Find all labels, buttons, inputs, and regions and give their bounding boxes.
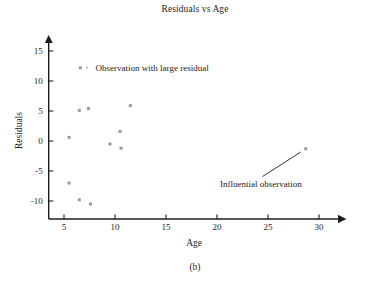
tick-layer — [49, 51, 319, 219]
y-tick-label: 5 — [38, 106, 43, 116]
x-tick-label: 30 — [315, 222, 325, 232]
x-tick-label: 15 — [162, 222, 172, 232]
data-point — [79, 66, 82, 69]
data-point — [68, 136, 71, 139]
data-point — [129, 104, 132, 107]
x-tick-label: 20 — [213, 222, 223, 232]
annotation-leader-line — [263, 152, 301, 176]
scatter-plot: 51015202530-10-5051015 Observation with … — [0, 0, 390, 288]
annotation-layer: Observation with large residualInfluenti… — [86, 63, 302, 189]
y-tick-label: 15 — [34, 46, 44, 56]
y-tick-label: -5 — [35, 166, 43, 176]
data-point — [304, 147, 307, 150]
y-tick-label: -10 — [31, 196, 43, 206]
data-point — [119, 130, 122, 133]
annotation-label: Observation with large residual — [96, 63, 210, 73]
x-tick-label: 10 — [111, 222, 121, 232]
figure-panel: Residuals vs Age 51015202530-10-5051015 … — [0, 0, 390, 288]
x-tick-label: 5 — [62, 222, 67, 232]
data-point — [120, 147, 123, 150]
data-point — [87, 107, 90, 110]
y-tick-label: 10 — [34, 76, 44, 86]
annotation-label: Influential observation — [220, 179, 302, 189]
data-point — [108, 143, 111, 146]
y-tick-label: 0 — [38, 136, 43, 146]
axis-title-layer: AgeResiduals — [14, 112, 202, 248]
x-tick-label: 25 — [264, 222, 274, 232]
data-point — [68, 182, 71, 185]
tick-label-layer: 51015202530-10-5051015 — [31, 46, 324, 232]
data-point — [78, 198, 81, 201]
x-axis-title: Age — [186, 238, 202, 248]
y-axis-title: Residuals — [14, 112, 24, 149]
figure-caption: (b) — [0, 262, 390, 272]
data-point — [78, 109, 81, 112]
data-point — [89, 203, 92, 206]
